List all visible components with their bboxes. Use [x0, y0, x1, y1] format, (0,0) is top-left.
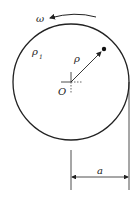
rho-label: ρ: [73, 53, 80, 64]
origin-label: O: [58, 86, 66, 97]
rho1-label: ρ: [31, 46, 38, 57]
rotation-arrow-icon: [50, 14, 96, 18]
rho1-subscript: 1: [39, 53, 43, 60]
point-mass: [102, 47, 106, 51]
disk-diagram: ω ρ 1 ρ O a: [0, 0, 139, 199]
omega-label: ω: [36, 13, 44, 24]
dimension-label: a: [97, 165, 103, 176]
